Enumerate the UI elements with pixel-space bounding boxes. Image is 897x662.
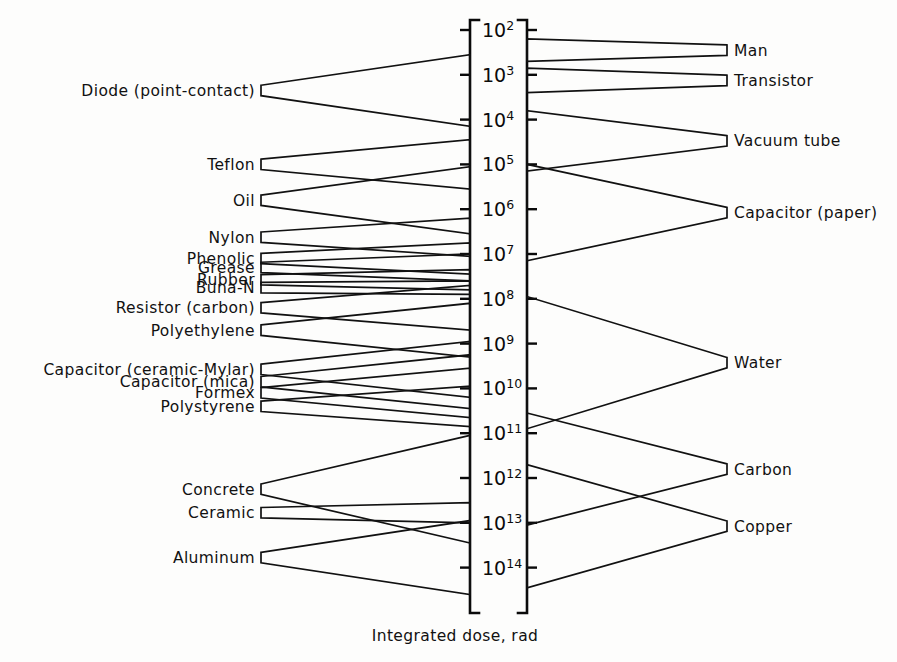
left-item-label: Oil xyxy=(233,192,255,210)
range-wedge-path xyxy=(527,413,727,525)
right-range-wedges xyxy=(527,39,727,588)
range-wedge-path xyxy=(527,164,727,260)
right-item-labels: ManTransistorVacuum tubeCapacitor (paper… xyxy=(733,42,877,536)
left-item-label: Concrete xyxy=(182,481,255,499)
radiation-dose-tolerance-chart: 1021031041051061071081091010101110121013… xyxy=(0,0,897,662)
range-wedge-path xyxy=(261,435,470,543)
range-wedge-path xyxy=(261,167,470,234)
axis-tick-label: 1013 xyxy=(482,511,522,534)
range-wedge xyxy=(527,413,727,525)
range-wedge-path xyxy=(527,465,727,588)
range-wedge xyxy=(261,167,470,234)
range-wedge-path xyxy=(527,297,727,429)
left-item-label: Polyethylene xyxy=(151,322,255,340)
axis-tick-label: 109 xyxy=(482,332,514,355)
range-wedge xyxy=(527,111,727,171)
left-item-label: Diode (point-contact) xyxy=(81,82,255,100)
range-wedge xyxy=(261,386,470,426)
range-wedge-path xyxy=(527,68,727,93)
dose-tolerance-chart-figure: 1021031041051061071081091010101110121013… xyxy=(0,0,897,662)
range-wedge-path xyxy=(261,55,470,127)
left-range-wedges xyxy=(261,55,470,595)
range-wedge xyxy=(261,435,470,543)
axis-tick-label: 1010 xyxy=(482,376,522,399)
range-wedge xyxy=(261,254,470,281)
range-wedge-path xyxy=(527,39,727,61)
range-wedge xyxy=(527,297,727,429)
left-item-label: Polystyrene xyxy=(161,398,255,416)
range-wedge xyxy=(527,68,727,93)
axis-tick-label: 107 xyxy=(482,242,514,265)
left-item-labels: Diode (point-contact)TeflonOilNylonPheno… xyxy=(43,82,255,567)
left-item-label: Ceramic xyxy=(188,504,255,522)
range-wedge-path xyxy=(261,503,470,523)
range-wedge-path xyxy=(261,303,470,357)
right-item-label: Water xyxy=(734,354,782,372)
range-wedge-path xyxy=(261,285,470,330)
range-wedge xyxy=(261,218,470,256)
range-wedge xyxy=(527,164,727,260)
range-wedge xyxy=(527,39,727,61)
axis-tick-label: 104 xyxy=(482,108,514,131)
range-wedge-path xyxy=(261,254,470,281)
axis-tick-label: 1011 xyxy=(482,421,522,444)
left-item-label: Aluminum xyxy=(173,549,255,567)
left-item-label: Buna-N xyxy=(196,279,255,297)
left-item-label: Nylon xyxy=(209,229,255,247)
range-wedge xyxy=(261,55,470,127)
axis-tick-label: 108 xyxy=(482,287,514,310)
range-wedge xyxy=(261,503,470,523)
range-wedge-path xyxy=(527,111,727,171)
axis-tick-label: 102 xyxy=(482,18,514,41)
right-item-label: Man xyxy=(734,42,768,60)
axis-tick-label: 1014 xyxy=(482,556,522,579)
range-wedge-path xyxy=(261,218,470,256)
range-wedge xyxy=(527,465,727,588)
left-item-label: Teflon xyxy=(206,156,255,174)
right-item-label: Copper xyxy=(734,518,793,536)
range-wedge xyxy=(261,303,470,357)
axis-tick-label: 103 xyxy=(482,63,514,86)
right-item-label: Vacuum tube xyxy=(734,132,841,150)
range-wedge xyxy=(261,521,470,595)
axis-tick-label: 105 xyxy=(482,152,514,175)
axis-tick-label: 106 xyxy=(482,197,514,220)
axis-caption: Integrated dose, rad xyxy=(372,627,539,645)
right-item-label: Capacitor (paper) xyxy=(734,204,877,222)
axis-tick-labels: 1021031041051061071081091010101110121013… xyxy=(482,18,522,579)
axis-left-rule xyxy=(470,20,479,613)
left-item-label: Resistor (carbon) xyxy=(116,299,255,317)
right-item-label: Carbon xyxy=(734,461,792,479)
range-wedge-path xyxy=(261,521,470,595)
axis-tick-label: 1012 xyxy=(482,466,522,489)
range-wedge xyxy=(261,285,470,330)
right-item-label: Transistor xyxy=(733,72,814,90)
range-wedge-path xyxy=(261,386,470,426)
